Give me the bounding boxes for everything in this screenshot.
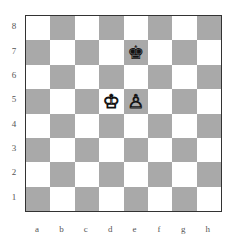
square-e4[interactable] [124, 114, 148, 138]
square-d2[interactable] [99, 162, 123, 186]
square-c2[interactable] [75, 162, 99, 186]
square-f4[interactable] [148, 114, 172, 138]
square-c7[interactable] [75, 40, 99, 64]
square-b3[interactable] [50, 138, 74, 162]
square-a1[interactable] [26, 187, 50, 211]
square-f2[interactable] [148, 162, 172, 186]
square-f6[interactable] [148, 65, 172, 89]
white-pawn-icon[interactable]: ♙ [127, 92, 144, 111]
square-e3[interactable] [124, 138, 148, 162]
file-label-d: d [98, 224, 122, 234]
square-h5[interactable] [197, 89, 221, 113]
square-a5[interactable] [26, 89, 50, 113]
square-a7[interactable] [26, 40, 50, 64]
square-f7[interactable] [148, 40, 172, 64]
square-h2[interactable] [197, 162, 221, 186]
square-c3[interactable] [75, 138, 99, 162]
square-h8[interactable] [197, 16, 221, 40]
file-label-c: c [74, 224, 98, 234]
square-h3[interactable] [197, 138, 221, 162]
square-c6[interactable] [75, 65, 99, 89]
rank-label-7: 7 [8, 46, 20, 56]
square-f1[interactable] [148, 187, 172, 211]
rank-label-2: 2 [8, 167, 20, 177]
square-c1[interactable] [75, 187, 99, 211]
square-d1[interactable] [99, 187, 123, 211]
rank-label-5: 5 [8, 94, 20, 104]
square-d4[interactable] [99, 114, 123, 138]
square-b5[interactable] [50, 89, 74, 113]
rank-label-1: 1 [8, 192, 20, 202]
square-g6[interactable] [172, 65, 196, 89]
rank-label-6: 6 [8, 70, 20, 80]
square-b4[interactable] [50, 114, 74, 138]
square-b1[interactable] [50, 187, 74, 211]
square-b8[interactable] [50, 16, 74, 40]
square-e7[interactable]: ♚ [124, 40, 148, 64]
square-h1[interactable] [197, 187, 221, 211]
file-label-g: g [171, 224, 195, 234]
square-a8[interactable] [26, 16, 50, 40]
square-g8[interactable] [172, 16, 196, 40]
chess-board: ♚♔♙ [25, 15, 222, 212]
square-g1[interactable] [172, 187, 196, 211]
file-label-h: h [196, 224, 220, 234]
square-g7[interactable] [172, 40, 196, 64]
square-c5[interactable] [75, 89, 99, 113]
file-label-e: e [123, 224, 147, 234]
square-e6[interactable] [124, 65, 148, 89]
rank-label-8: 8 [8, 21, 20, 31]
file-label-a: a [25, 224, 49, 234]
black-king-icon[interactable]: ♚ [127, 43, 144, 62]
square-g2[interactable] [172, 162, 196, 186]
square-b6[interactable] [50, 65, 74, 89]
square-g4[interactable] [172, 114, 196, 138]
square-h6[interactable] [197, 65, 221, 89]
square-c8[interactable] [75, 16, 99, 40]
square-f8[interactable] [148, 16, 172, 40]
square-d8[interactable] [99, 16, 123, 40]
square-e5[interactable]: ♙ [124, 89, 148, 113]
square-d7[interactable] [99, 40, 123, 64]
square-b7[interactable] [50, 40, 74, 64]
square-a6[interactable] [26, 65, 50, 89]
square-f3[interactable] [148, 138, 172, 162]
square-g3[interactable] [172, 138, 196, 162]
square-h7[interactable] [197, 40, 221, 64]
square-e2[interactable] [124, 162, 148, 186]
square-e8[interactable] [124, 16, 148, 40]
square-c4[interactable] [75, 114, 99, 138]
square-g5[interactable] [172, 89, 196, 113]
square-a3[interactable] [26, 138, 50, 162]
square-d5[interactable]: ♔ [99, 89, 123, 113]
square-a2[interactable] [26, 162, 50, 186]
square-a4[interactable] [26, 114, 50, 138]
square-d3[interactable] [99, 138, 123, 162]
file-label-f: f [147, 224, 171, 234]
rank-label-3: 3 [8, 143, 20, 153]
square-h4[interactable] [197, 114, 221, 138]
rank-label-4: 4 [8, 119, 20, 129]
square-d6[interactable] [99, 65, 123, 89]
square-e1[interactable] [124, 187, 148, 211]
square-b2[interactable] [50, 162, 74, 186]
square-f5[interactable] [148, 89, 172, 113]
white-king-icon[interactable]: ♔ [103, 92, 120, 111]
file-label-b: b [49, 224, 73, 234]
